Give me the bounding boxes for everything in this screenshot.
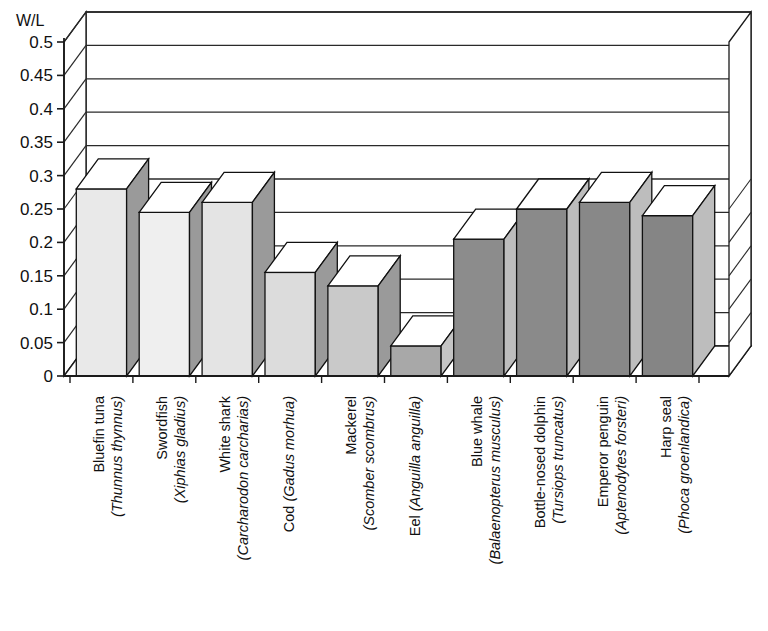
- y-axis-tick-label: 0.05: [20, 334, 53, 353]
- bar-front-face: [454, 239, 504, 376]
- category-label-scientific: (Phoca groenlandica): [676, 396, 692, 534]
- bar-column: [202, 172, 274, 376]
- category-label-scientific: (Scomber scombrus): [361, 396, 377, 531]
- bar-front-face: [139, 212, 189, 376]
- category-label-common: Emperor penguin: [595, 396, 611, 507]
- category-label-common: Mackerel: [343, 396, 359, 455]
- y-axis-tick-label: 0.5: [29, 33, 53, 52]
- category-label-scientific: (Balaenopterus musculus): [487, 396, 503, 564]
- bar-column: [76, 159, 148, 376]
- category-label: Blue whale(Balaenopterus musculus): [469, 396, 503, 564]
- category-label-common: Bluefin tuna: [91, 395, 107, 473]
- bar-column: [517, 179, 589, 376]
- bar-front-face: [76, 189, 126, 376]
- bar-chart: 00.050.10.150.20.250.30.350.40.450.5W/LB…: [0, 0, 768, 631]
- y-axis-tick-label: 0.1: [29, 300, 53, 319]
- category-label: Cod (Gadus morhua): [281, 396, 297, 532]
- bar-column: [328, 256, 400, 376]
- category-label: Bottle-nosed dolphin(Tursiops truncatus): [532, 396, 566, 528]
- bar-front-face: [642, 216, 692, 376]
- y-axis-title: W/L: [16, 12, 45, 29]
- bar-column: [642, 186, 714, 376]
- y-axis-tick-label: 0.45: [20, 66, 53, 85]
- category-label: Eel (Anguilla anguilla): [407, 396, 423, 536]
- bar-side-face: [693, 186, 715, 376]
- category-label-scientific: (Thunnus thynnus): [109, 396, 125, 517]
- bar-column: [579, 172, 651, 376]
- category-label: Harp seal(Phoca groenlandica): [658, 396, 692, 534]
- chart-container: 00.050.10.150.20.250.30.350.40.450.5W/LB…: [0, 0, 768, 631]
- category-label-scientific: (Tursiops truncatus): [550, 396, 566, 524]
- y-axis-tick-label: 0.35: [20, 133, 53, 152]
- category-label: Mackerel(Scomber scombrus): [343, 396, 377, 531]
- category-label-text: Cod (Gadus morhua): [281, 396, 297, 532]
- bar-front-face: [517, 209, 567, 376]
- bar-front-face: [391, 346, 441, 376]
- x-axis-labels: Bluefin tuna(Thunnus thynnus)Swordfish(X…: [91, 395, 691, 564]
- category-label-common: White shark: [217, 395, 233, 472]
- category-label: Swordfish(Xiphias gladius): [154, 396, 188, 503]
- category-label-scientific: (Aptenodytes forsteri): [613, 396, 629, 535]
- category-label-common: Bottle-nosed dolphin: [532, 396, 548, 528]
- category-label: White shark(Carcharodon carcharias): [217, 395, 251, 560]
- category-label-common: Harp seal: [658, 396, 674, 458]
- bar-column: [139, 182, 211, 376]
- category-label-common: Swordfish: [154, 396, 170, 460]
- y-axis-tick-label: 0.4: [29, 100, 53, 119]
- y-axis-tick-label: 0.2: [29, 233, 53, 252]
- bar-front-face: [202, 202, 252, 376]
- bar-column: [454, 209, 526, 376]
- category-label-common: Blue whale: [469, 396, 485, 467]
- category-label-scientific: (Carcharodon carcharias): [235, 396, 251, 560]
- bar-front-face: [328, 286, 378, 376]
- category-label: Emperor penguin(Aptenodytes forsteri): [595, 396, 629, 535]
- y-axis-tick-label: 0.15: [20, 267, 53, 286]
- category-label: Bluefin tuna(Thunnus thynnus): [91, 395, 125, 517]
- y-axis-tick-label: 0.25: [20, 200, 53, 219]
- category-label-text: Eel (Anguilla anguilla): [407, 396, 423, 536]
- y-axis-tick-label: 0: [44, 367, 53, 386]
- bar-front-face: [265, 272, 315, 376]
- category-label-scientific: (Xiphias gladius): [172, 396, 188, 503]
- bar-column: [265, 242, 337, 376]
- bar-front-face: [579, 202, 629, 376]
- y-axis-tick-label: 0.3: [29, 167, 53, 186]
